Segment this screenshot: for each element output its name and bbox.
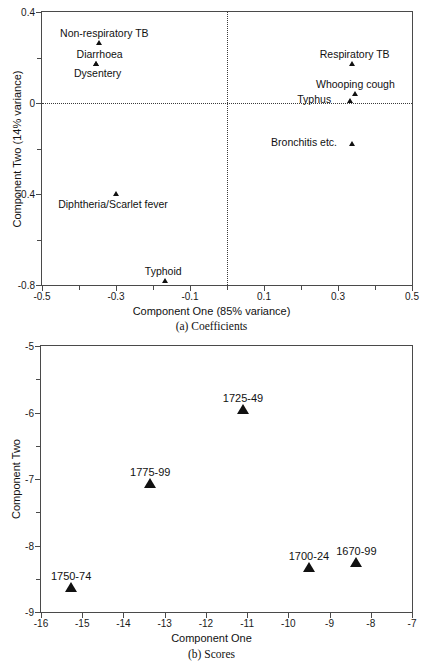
y-axis-tick-label: -8	[25, 540, 34, 551]
data-point-label: 1750-74	[51, 570, 91, 582]
data-point-marker	[303, 562, 315, 572]
x-axis-tick-label: -13	[157, 618, 171, 629]
data-point-label: Typhoid	[145, 265, 182, 277]
y-axis-tick-label: -7	[25, 474, 34, 485]
data-point-label: Respiratory TB	[320, 48, 390, 60]
data-point-label: Non-respiratory TB	[60, 27, 149, 39]
x-axis-minor-tick	[301, 285, 302, 290]
coefficients-figure: 0.40-0.4-0.8-0.5-0.3-0.10.10.30.5Non-res…	[0, 0, 423, 340]
x-axis-tick-label: -14	[116, 618, 130, 629]
x-axis-tick-label: -15	[75, 618, 89, 629]
x-axis-tick-label: -7	[408, 618, 417, 629]
data-point-marker	[113, 191, 119, 196]
x-axis-tick-label: 0.3	[331, 291, 345, 302]
data-point-label: Bronchitis etc.	[271, 136, 337, 148]
vertical-reference-line	[227, 12, 228, 285]
y-axis-tick	[35, 479, 41, 480]
y-axis-tick	[36, 103, 42, 104]
x-axis-tick-label: 0.5	[405, 291, 419, 302]
y-axis-minor-tick	[37, 240, 42, 241]
y-axis-minor-tick	[36, 379, 41, 380]
data-point-marker	[96, 40, 102, 45]
y-axis-tick	[35, 413, 41, 414]
data-point-marker	[162, 278, 168, 283]
data-point-marker	[65, 582, 77, 592]
x-axis-tick-label: -12	[199, 618, 213, 629]
y-axis-tick-label: -6	[25, 407, 34, 418]
x-axis-tick-label: -0.5	[33, 291, 50, 302]
y-axis-minor-tick	[37, 58, 42, 59]
data-point-label: 1725-49	[223, 392, 263, 404]
data-point-marker	[144, 478, 156, 488]
data-point-label: Dysentery	[74, 67, 121, 79]
scores-caption: (b) Scores	[0, 648, 423, 660]
y-axis-tick	[36, 194, 42, 195]
x-axis-minor-tick	[375, 285, 376, 290]
coefficients-caption: (a) Coefficients	[0, 320, 423, 332]
y-axis-minor-tick	[36, 446, 41, 447]
x-axis-tick-label: -0.1	[181, 291, 198, 302]
data-point-label: Diphtheria/Scarlet fever	[58, 198, 168, 210]
data-point-marker	[349, 141, 355, 146]
y-axis-tick-label: -9	[25, 607, 34, 618]
y-axis-minor-tick	[36, 579, 41, 580]
x-axis-minor-tick	[79, 285, 80, 290]
coefficients-plot-area: 0.40-0.4-0.8-0.5-0.3-0.10.10.30.5Non-res…	[41, 11, 413, 286]
data-point-marker	[237, 404, 249, 414]
data-point-label: 1775-99	[130, 466, 170, 478]
x-axis-tick-label: -16	[34, 618, 48, 629]
data-point-marker	[93, 61, 99, 66]
horizontal-reference-line	[42, 103, 412, 104]
data-point-marker	[352, 91, 358, 96]
x-axis-minor-tick	[227, 285, 228, 290]
y-axis-tick-label: -0.8	[18, 280, 35, 291]
y-axis-tick-label: 0	[29, 98, 35, 109]
x-axis-tick-label: 0.1	[257, 291, 271, 302]
data-point-label: 1670-99	[336, 545, 376, 557]
data-point-label: Whooping cough	[316, 78, 395, 90]
data-point-marker	[350, 557, 362, 567]
coefficients-y-axis-title: Component Two (14% variance)	[11, 70, 23, 227]
y-axis-tick	[35, 346, 41, 347]
x-axis-tick-label: -10	[281, 618, 295, 629]
y-axis-minor-tick	[37, 149, 42, 150]
y-axis-tick-label: -5	[25, 341, 34, 352]
data-point-label: Typhus	[297, 93, 331, 105]
y-axis-tick	[36, 12, 42, 13]
data-point-label: 1700-24	[289, 550, 329, 562]
scores-plot-area: -5-6-7-8-9-16-15-14-13-12-11-10-9-8-7172…	[40, 345, 413, 613]
y-axis-minor-tick	[36, 512, 41, 513]
data-point-label: Diarrhoea	[77, 48, 123, 60]
data-point-marker	[349, 61, 355, 66]
data-point-marker	[347, 98, 353, 103]
x-axis-tick-label: -9	[325, 618, 334, 629]
x-axis-tick-label: -11	[240, 618, 254, 629]
y-axis-tick	[35, 546, 41, 547]
x-axis-tick-label: -8	[366, 618, 375, 629]
scores-x-axis-title: Component One	[0, 632, 423, 644]
scores-y-axis-title: Component Two	[10, 439, 22, 519]
x-axis-tick-label: -0.3	[107, 291, 124, 302]
coefficients-x-axis-title: Component One (85% variance)	[0, 305, 423, 317]
scores-figure: -5-6-7-8-9-16-15-14-13-12-11-10-9-8-7172…	[0, 334, 423, 664]
x-axis-minor-tick	[153, 285, 154, 290]
y-axis-tick-label: 0.4	[21, 7, 35, 18]
